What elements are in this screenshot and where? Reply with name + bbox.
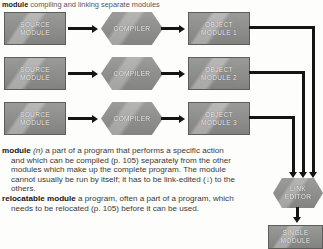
object-module-box-1: OBJECT MODULE 1	[188, 12, 250, 45]
arrow-head-compiler-to-object-2	[179, 70, 185, 78]
arrow-shaft-source-to-compiler-3	[68, 117, 93, 120]
object-module-label-2: OBJECT MODULE 2	[200, 66, 238, 81]
arrow-head-source-to-compiler-1	[92, 25, 98, 33]
arrow-shaft-compiler-to-object-1	[161, 27, 180, 30]
source-module-box-2: SOURCE MODULE	[4, 57, 66, 90]
arrow-head-source-to-compiler-3	[92, 115, 98, 123]
arrow-head-compiler-to-object-1	[179, 25, 185, 33]
object-module-label-1: OBJECT MODULE 1	[200, 21, 238, 36]
route-arrow-head-1	[309, 172, 317, 178]
process-flow-diagram: SOURCE MODULE COMPILER OBJECT MODULE 1 S…	[0, 9, 323, 143]
glossary-body-module: a part of a program that performs a spec…	[11, 146, 235, 193]
arrow-shaft-source-to-compiler-2	[68, 72, 93, 75]
route-horizontal-1	[249, 26, 315, 29]
caption-text: compiling and linking separate modules	[28, 0, 159, 9]
route-vertical-2	[302, 71, 305, 174]
route-vertical-3	[292, 116, 295, 174]
glossary-headword-relocatable-module: relocatable module	[2, 194, 76, 203]
compiler-hex-3: COMPILER	[101, 102, 163, 135]
arrow-shaft-compiler-to-object-2	[161, 72, 180, 75]
source-module-label-1: SOURCE MODULE	[19, 21, 51, 36]
route-horizontal-3	[249, 116, 295, 119]
link-editor-label: LINK EDITOR	[284, 185, 313, 200]
compiler-hex-2: COMPILER	[101, 57, 163, 90]
arrow-head-source-to-compiler-2	[92, 70, 98, 78]
compiler-hex-1: COMPILER	[101, 12, 163, 45]
object-module-box-3: OBJECT MODULE 3	[188, 102, 250, 135]
glossary-headword-module: module	[2, 146, 31, 155]
caption-headword: module	[2, 0, 28, 9]
route-horizontal-2	[249, 71, 305, 74]
arrow-shaft-compiler-to-object-3	[161, 117, 180, 120]
object-module-box-2: OBJECT MODULE 2	[188, 57, 250, 90]
compiler-label-1: COMPILER	[113, 25, 152, 33]
source-module-box-3: SOURCE MODULE	[4, 102, 66, 135]
route-vertical-1	[312, 26, 315, 174]
compiler-label-2: COMPILER	[113, 70, 152, 78]
glossary-definitions: module (n) a part of a program that perf…	[2, 146, 238, 214]
glossary-pos-module: (n)	[33, 146, 43, 155]
arrow-shaft-source-to-compiler-1	[68, 27, 93, 30]
link-editor-output-arrow-head	[293, 217, 301, 223]
compiler-label-3: COMPILER	[113, 115, 152, 123]
route-arrow-head-3	[289, 172, 297, 178]
glossary-entry-relocatable-module: relocatable module a program, often a pa…	[2, 194, 238, 213]
route-arrow-head-2	[299, 172, 307, 178]
link-editor-hex: LINK EDITOR	[273, 178, 323, 208]
single-module-box: SINGLE MODULE	[268, 225, 323, 249]
source-module-label-2: SOURCE MODULE	[19, 66, 51, 81]
object-module-label-3: OBJECT MODULE 3	[200, 111, 238, 126]
single-module-label: SINGLE MODULE	[279, 229, 311, 244]
arrow-head-compiler-to-object-3	[179, 115, 185, 123]
glossary-entry-module: module (n) a part of a program that perf…	[2, 146, 238, 194]
figure-caption: module compiling and linking separate mo…	[2, 0, 322, 9]
source-module-box-1: SOURCE MODULE	[4, 12, 66, 45]
source-module-label-3: SOURCE MODULE	[19, 111, 51, 126]
